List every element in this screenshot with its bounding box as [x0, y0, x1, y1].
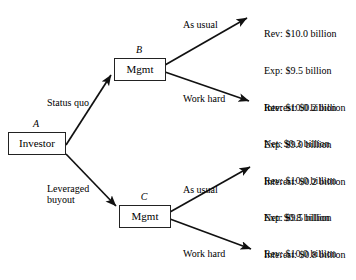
outcome-line: Exp: $9.5 billion [264, 212, 345, 224]
edge-label-status-quo: Status quo [47, 97, 89, 108]
outcome-line: Rev: $10.0 billion [264, 28, 345, 40]
edge-label-c-work-hard: Work hard [183, 248, 225, 259]
outcome-block-4: Rev: $10.0 billion Exp: $9.0 billion Int… [264, 224, 345, 280]
edge-c-to-outcome-4 [170, 219, 251, 249]
outcome-line: Rev: $10.0 billion [264, 175, 345, 187]
node-letter-b: B [124, 44, 154, 55]
outcome-line: Exp: $9.0 billion [264, 139, 345, 151]
edge-label-b-work-hard: Work hard [183, 93, 225, 104]
edge-a-to-b [66, 75, 111, 145]
edge-label-leveraged-buyout: Leveraged buyout [47, 183, 89, 205]
outcome-line: Rev: $10.0 billion [264, 248, 345, 260]
node-investor[interactable]: Investor [8, 132, 66, 155]
outcome-line: Rev: $10.0 billion [264, 102, 345, 114]
node-investor-label: Investor [19, 138, 55, 149]
node-mgmt-c[interactable]: Mgmt [119, 205, 171, 228]
outcome-line: Exp: $9.5 billion [264, 65, 345, 77]
edge-label-b-as-usual: As usual [183, 19, 218, 30]
node-mgmt-b[interactable]: Mgmt [114, 58, 166, 81]
node-mgmt-b-label: Mgmt [127, 64, 154, 75]
node-letter-a: A [21, 118, 51, 129]
node-mgmt-c-label: Mgmt [132, 211, 159, 222]
node-letter-c: C [129, 191, 159, 202]
edge-label-c-as-usual: As usual [183, 184, 218, 195]
